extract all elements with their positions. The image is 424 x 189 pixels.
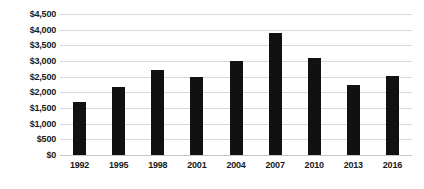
x-tick-label: 1998 bbox=[140, 160, 176, 171]
x-tick-label: 2001 bbox=[179, 160, 215, 171]
bar bbox=[269, 33, 282, 155]
y-tick-label: $1,500 bbox=[0, 104, 56, 113]
bar bbox=[230, 61, 243, 155]
x-tick-label: 2010 bbox=[296, 160, 332, 171]
x-tick-label: 2004 bbox=[218, 160, 254, 171]
y-tick-label: $4,000 bbox=[0, 26, 56, 35]
bar bbox=[190, 77, 203, 155]
bar bbox=[386, 76, 399, 155]
plot-area bbox=[60, 14, 412, 155]
bars-layer bbox=[60, 14, 412, 155]
x-tick-label: 1995 bbox=[101, 160, 137, 171]
bar bbox=[347, 85, 360, 156]
x-tick-label: 1992 bbox=[62, 160, 98, 171]
y-axis: $0$500$1,000$1,500$2,000$2,500$3,000$3,5… bbox=[0, 0, 56, 189]
y-tick-label: $4,500 bbox=[0, 10, 56, 19]
bar bbox=[112, 87, 125, 155]
bar-chart: $0$500$1,000$1,500$2,000$2,500$3,000$3,5… bbox=[0, 0, 424, 189]
y-tick-label: $3,000 bbox=[0, 57, 56, 66]
gridline bbox=[60, 155, 412, 156]
y-tick-label: $500 bbox=[0, 135, 56, 144]
y-tick-label: $3,500 bbox=[0, 41, 56, 50]
x-axis: 199219951998200120042007201020132016 bbox=[60, 160, 412, 174]
x-tick-label: 2016 bbox=[374, 160, 410, 171]
bar bbox=[151, 70, 164, 155]
y-tick-label: $2,500 bbox=[0, 73, 56, 82]
bar bbox=[73, 102, 86, 155]
y-tick-label: $0 bbox=[0, 151, 56, 160]
y-tick-label: $2,000 bbox=[0, 88, 56, 97]
y-tick-label: $1,000 bbox=[0, 120, 56, 129]
bar bbox=[308, 58, 321, 155]
x-tick-label: 2013 bbox=[335, 160, 371, 171]
x-tick-label: 2007 bbox=[257, 160, 293, 171]
